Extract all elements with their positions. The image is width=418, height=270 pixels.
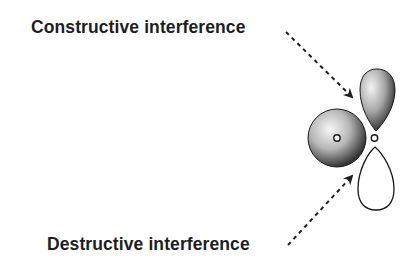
- p-nucleus: [371, 135, 377, 141]
- constructive-arrow: [286, 32, 352, 97]
- p-orbital-upper-lobe: [360, 69, 395, 131]
- s-nucleus: [334, 135, 340, 141]
- orbital-diagram: [0, 0, 418, 270]
- s-orbital: [308, 109, 366, 167]
- destructive-arrow: [288, 176, 352, 245]
- p-orbital-lower-lobe: [358, 147, 394, 210]
